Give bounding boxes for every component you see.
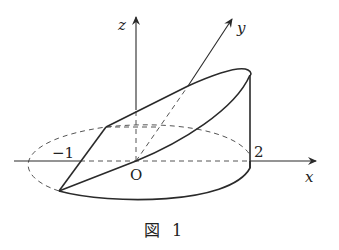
top-surface-upper-edge [106, 69, 251, 127]
solid-figure-diagram: z y x O −1 2 図 1 [0, 0, 339, 250]
origin-label: O [130, 166, 142, 184]
x-axis-label: x [305, 168, 314, 186]
tick-two: 2 [254, 143, 264, 161]
top-surface-lower-edge [59, 75, 250, 191]
tick-neg-one: −1 [52, 144, 74, 162]
y-axis [188, 19, 232, 86]
figure-caption-number: 1 [172, 221, 182, 240]
z-axis-label: z [117, 16, 126, 34]
y-axis-label: y [236, 19, 246, 37]
figure-caption-symbol: 図 [144, 221, 160, 240]
